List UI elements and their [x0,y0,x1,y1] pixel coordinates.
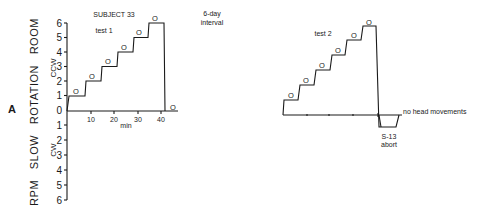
no-head-movements-note: no head movements [403,108,467,115]
svg-text:O: O [335,46,341,55]
svg-text:O: O [170,103,176,112]
svg-text:1: 1 [56,120,62,131]
svg-text:O: O [152,14,158,23]
svg-text:O: O [288,91,294,100]
figure-panel-a: A RPM SLOW ROTATION ROOM CCW CW 6 5 4 3 … [0,0,488,213]
svg-text:2: 2 [56,135,62,146]
svg-text:5: 5 [56,32,62,43]
svg-text:O: O [303,76,309,85]
svg-text:3: 3 [56,150,62,161]
svg-text:3: 3 [56,61,62,72]
test1-label: test 1 [95,27,112,34]
x-axis-test1: 10 20 30 40 min [67,111,178,129]
svg-text:0: 0 [56,105,62,116]
panel-label: A [8,103,16,115]
svg-text:O: O [121,43,127,52]
svg-text:40: 40 [157,116,165,123]
x-axis-test2 [283,113,402,117]
abort-label-line1: S-13 [382,133,397,140]
svg-text:30: 30 [134,116,142,123]
svg-text:6: 6 [56,195,62,206]
svg-text:O: O [136,28,142,37]
abort-label-line2: abort [381,141,397,148]
test2-label: test 2 [314,30,331,37]
subject-label: SUBJECT 33 [93,11,135,18]
interval-label-line1: 6-day [203,10,221,18]
svg-text:10: 10 [87,116,95,123]
svg-text:O: O [366,18,372,27]
y-axis-label: RPM SLOW ROTATION ROOM [28,18,40,206]
svg-text:2: 2 [56,76,62,87]
svg-text:O: O [89,72,95,81]
svg-text:O: O [73,87,79,96]
svg-text:6: 6 [56,18,62,29]
svg-text:4: 4 [56,165,62,176]
test2-rpm-profile [283,26,399,127]
y-axis: 6 5 4 3 2 1 0 1 2 3 4 5 6 [56,18,67,206]
test1-rpm-profile [67,23,165,111]
interval-label-line2: interval [201,19,224,26]
test1-symptom-markers: O O O O O O O [73,14,176,112]
svg-text:O: O [105,57,111,66]
svg-text:O: O [351,31,357,40]
x-axis-label: min [120,122,131,129]
svg-text:4: 4 [56,47,62,58]
svg-text:1: 1 [56,90,62,101]
svg-text:5: 5 [56,180,62,191]
svg-text:O: O [319,61,325,70]
svg-text:20: 20 [110,116,118,123]
